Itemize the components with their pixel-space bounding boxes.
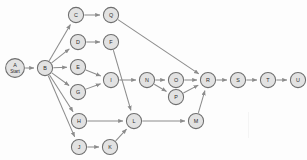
node-circle-n[interactable]: [139, 72, 154, 87]
node-b[interactable]: B: [37, 60, 52, 75]
node-c[interactable]: C: [68, 7, 83, 22]
node-circle-u[interactable]: [290, 72, 305, 87]
edge-layer: [25, 15, 287, 147]
node-circle-j[interactable]: [71, 139, 86, 154]
node-circle-r[interactable]: [200, 72, 215, 87]
node-t[interactable]: T: [260, 72, 275, 87]
node-u[interactable]: U: [290, 72, 305, 87]
node-circle-t[interactable]: [260, 72, 275, 87]
node-f[interactable]: F: [103, 34, 118, 49]
node-o[interactable]: O: [168, 72, 183, 87]
edge-m-to-r: [198, 91, 205, 113]
node-circle-k[interactable]: [102, 139, 117, 154]
node-p[interactable]: P: [168, 89, 183, 104]
node-l[interactable]: L: [126, 113, 141, 128]
node-q[interactable]: Q: [103, 7, 118, 22]
node-circle-s[interactable]: [230, 72, 245, 87]
node-a[interactable]: AStart: [6, 59, 25, 78]
edge-e-to-i: [86, 70, 101, 76]
node-g[interactable]: G: [70, 84, 85, 99]
node-m[interactable]: M: [188, 113, 203, 128]
edge-b-to-c: [49, 25, 70, 61]
node-circle-c[interactable]: [68, 7, 83, 22]
edge-q-to-r: [118, 20, 199, 74]
node-n[interactable]: N: [139, 72, 154, 87]
node-i[interactable]: I: [103, 72, 118, 87]
edge-b-to-d: [52, 49, 70, 63]
node-circle-q[interactable]: [103, 7, 118, 22]
node-circle-p[interactable]: [168, 89, 183, 104]
node-d[interactable]: D: [70, 34, 85, 49]
edge-g-to-i: [86, 84, 101, 89]
node-circle-l[interactable]: [126, 113, 141, 128]
edge-p-to-r: [183, 85, 198, 93]
diagram-canvas: AStartBCQDFEGINOPRSTUHLMJK: [0, 0, 307, 160]
node-circle-d[interactable]: [70, 34, 85, 49]
edge-b-to-g: [52, 73, 69, 86]
node-k[interactable]: K: [102, 139, 117, 154]
node-e[interactable]: E: [70, 59, 85, 74]
node-circle-a[interactable]: [6, 59, 25, 78]
node-circle-o[interactable]: [168, 72, 183, 87]
edge-n-to-p: [154, 84, 166, 91]
node-r[interactable]: R: [200, 72, 215, 87]
node-circle-i[interactable]: [103, 72, 118, 87]
node-circle-g[interactable]: [70, 84, 85, 99]
graph-svg: AStartBCQDFEGINOPRSTUHLMJK: [0, 0, 307, 160]
edge-b-to-j: [48, 76, 74, 137]
node-circle-m[interactable]: [188, 113, 203, 128]
node-circle-h[interactable]: [71, 113, 86, 128]
node-circle-b[interactable]: [37, 60, 52, 75]
node-circle-e[interactable]: [70, 59, 85, 74]
node-circle-f[interactable]: [103, 34, 118, 49]
node-h[interactable]: H: [71, 113, 86, 128]
node-j[interactable]: J: [71, 139, 86, 154]
edge-k-to-l: [116, 129, 127, 141]
node-s[interactable]: S: [230, 72, 245, 87]
